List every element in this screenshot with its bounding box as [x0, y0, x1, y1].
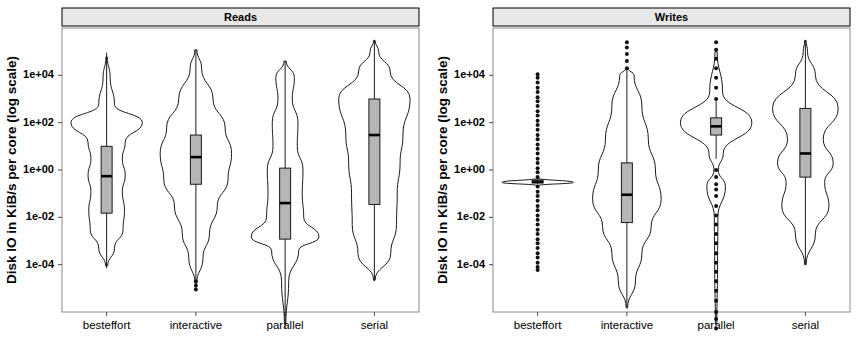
panel-writes: Writes1e+041e+021e+001e-021e-04Disk IO i… [431, 0, 862, 338]
outlier-point [536, 76, 540, 80]
outlier-point [536, 99, 540, 103]
violin-group [339, 40, 410, 281]
outlier-point [714, 261, 718, 265]
outlier-point [714, 270, 718, 274]
outlier-point [536, 151, 540, 155]
outlier-point [536, 147, 540, 151]
panel-border [62, 28, 419, 312]
outlier-point [194, 287, 198, 291]
outlier-point [714, 97, 718, 101]
panel-strip-title: Reads [224, 11, 257, 23]
outlier-point [625, 45, 629, 49]
violin-plot-figure: Reads1e+041e+021e+001e-021e-04Disk IO in… [0, 0, 862, 338]
violin-group [71, 53, 142, 269]
outlier-point [714, 213, 718, 217]
y-tick-label: 1e+04 [23, 68, 55, 80]
y-tick-label: 1e+02 [23, 116, 54, 128]
y-tick-label: 1e+00 [23, 163, 54, 175]
outlier-point [536, 86, 540, 90]
outlier-point [714, 310, 718, 314]
outlier-point [536, 123, 540, 127]
outlier-point [714, 86, 718, 90]
outlier-point [714, 168, 718, 172]
outlier-point [536, 170, 540, 174]
outlier-point [714, 204, 718, 208]
x-tick-label: interactive [601, 319, 653, 331]
y-tick-label: 1e+02 [454, 116, 485, 128]
outlier-point [714, 241, 718, 245]
outlier-point [714, 194, 718, 198]
outlier-point [714, 317, 718, 321]
outlier-point [714, 187, 718, 191]
outlier-point [714, 40, 718, 44]
outlier-point [536, 185, 540, 189]
outlier-point [536, 104, 540, 108]
y-axis-title: Disk IO in KiB/s per core (log scale) [435, 56, 450, 284]
y-tick-label: 1e-02 [457, 210, 485, 222]
outlier-point [625, 59, 629, 63]
outlier-point [536, 208, 540, 212]
x-tick-label: serial [361, 319, 388, 331]
y-tick-label: 1e-04 [457, 258, 486, 270]
violin-group [773, 40, 839, 264]
outlier-point [536, 190, 540, 194]
outlier-point [536, 222, 540, 226]
outlier-point [536, 109, 540, 113]
outlier-point [536, 237, 540, 241]
outlier-point [536, 157, 540, 161]
outlier-point [194, 284, 198, 288]
y-tick-label: 1e-02 [26, 210, 54, 222]
box-rect [621, 163, 632, 223]
outlier-point [536, 213, 540, 217]
outlier-point [714, 57, 718, 61]
outlier-point [536, 175, 540, 179]
box-rect [369, 99, 380, 204]
violin-group [160, 50, 231, 292]
x-tick-label: interactive [170, 319, 222, 331]
box-rect [190, 135, 201, 184]
outlier-point [536, 241, 540, 245]
outlier-point [714, 251, 718, 255]
outlier-point [714, 279, 718, 283]
outlier-point [536, 137, 540, 141]
outlier-point [536, 268, 540, 272]
outlier-point [536, 232, 540, 236]
outlier-point [536, 256, 540, 260]
outlier-point [536, 166, 540, 170]
outlier-point [714, 289, 718, 293]
outlier-point [536, 246, 540, 250]
panel-reads: Reads1e+041e+021e+001e-021e-04Disk IO in… [0, 0, 431, 338]
violin-group [593, 40, 662, 308]
outlier-point [536, 90, 540, 94]
outlier-point [536, 161, 540, 165]
y-tick-label: 1e+04 [454, 68, 486, 80]
outlier-point [536, 114, 540, 118]
outlier-point [714, 222, 718, 226]
outlier-point [536, 133, 540, 137]
y-tick-label: 1e+00 [454, 163, 485, 175]
violin-group [680, 40, 751, 330]
outlier-point [714, 66, 718, 70]
outlier-point [714, 175, 718, 179]
panel-reads-canvas: Reads1e+041e+021e+001e-021e-04Disk IO in… [0, 0, 431, 338]
outlier-point [714, 299, 718, 303]
outlier-point [714, 182, 718, 186]
violin-group [251, 61, 319, 328]
outlier-point [625, 52, 629, 56]
panel-strip-title: Writes [655, 11, 688, 23]
outlier-point [714, 76, 718, 80]
outlier-point [536, 204, 540, 208]
outlier-point [536, 128, 540, 132]
outlier-point [536, 142, 540, 146]
outlier-point [536, 95, 540, 99]
outlier-point [536, 119, 540, 123]
outlier-point [536, 261, 540, 265]
box-rect [800, 108, 811, 177]
y-axis-title: Disk IO in KiB/s per core (log scale) [4, 56, 19, 284]
violin-group [502, 72, 573, 272]
outlier-point [625, 66, 629, 70]
outlier-point [536, 80, 540, 84]
y-tick-label: 1e-04 [26, 258, 55, 270]
outlier-point [714, 48, 718, 52]
outlier-point [714, 232, 718, 236]
